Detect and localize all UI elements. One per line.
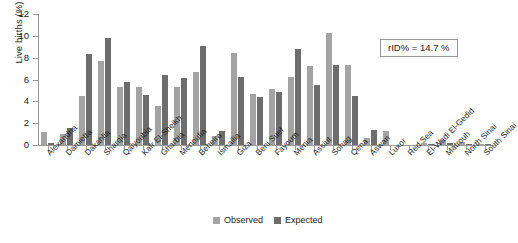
bar-group [79,14,92,145]
y-tick-label: 6 [5,75,29,85]
bar-group [326,14,339,145]
bar-group [364,14,377,145]
legend-label: Observed [224,216,263,225]
bar-expected [333,65,339,145]
bar-group [41,14,54,145]
bar-group [231,14,244,145]
bar-group [212,14,225,145]
bar-group [421,14,434,145]
chart-legend: ObservedExpected [213,216,323,225]
bar-group [383,14,396,145]
bar-expected [314,85,320,145]
bar-group [288,14,301,145]
legend-item: Observed [213,216,263,225]
bar-expected [352,96,358,145]
legend-swatch [213,217,220,224]
bar-group [402,14,415,145]
y-tick-label: 4 [5,96,29,106]
bar-group [307,14,320,145]
legend-swatch [274,217,281,224]
bar-group [345,14,358,145]
bar-group [250,14,263,145]
bar-group [117,14,130,145]
bar-observed [307,66,313,145]
y-tick-label: 2 [5,118,29,128]
y-tick-mark [33,145,38,146]
y-tick-label: 0 [5,140,29,150]
y-tick-label: 12 [5,9,29,19]
bar-observed [41,132,47,145]
legend-label: Expected [285,216,323,225]
rid-annotation-box: rID% = 14.7 % [380,39,458,57]
bar-observed [326,33,332,145]
y-tick-label: 8 [5,53,29,63]
bar-observed [250,94,256,145]
bar-expected [257,97,263,145]
legend-item: Expected [274,216,323,225]
plot-area [38,14,494,145]
y-tick-label: 10 [5,31,29,41]
bar-group [193,14,206,145]
bar-observed [345,65,351,145]
bar-group [98,14,111,145]
